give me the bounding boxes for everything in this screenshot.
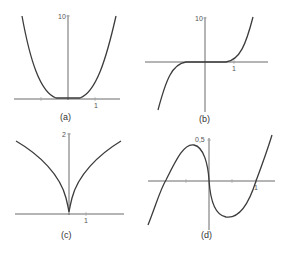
ytick-label: 10: [58, 13, 66, 20]
ytick-label: 2: [62, 131, 66, 138]
panel-b: 10 1 (b): [145, 15, 268, 124]
caption-c: (c): [61, 230, 72, 240]
caption-a: (a): [60, 112, 71, 122]
ytick-label: 0,5: [195, 136, 205, 143]
panel-c: 2 1 (c): [15, 131, 124, 240]
xtick-label: 1: [94, 102, 98, 109]
curve-d: [148, 135, 272, 225]
panel-d: 0,5 1 (d): [148, 135, 275, 240]
caption-d: (d): [201, 230, 212, 240]
xtick-label: 1: [84, 217, 88, 224]
curve-a: [22, 16, 116, 98]
figure-canvas: 10 1 (a) 10 1 (b) 2 1 (c) 0,5 1 (d): [0, 0, 283, 253]
panel-a: 10 1 (a): [14, 13, 120, 122]
xtick-label: 1: [232, 65, 236, 72]
caption-b: (b): [199, 114, 210, 124]
ytick-label: 10: [195, 15, 203, 22]
